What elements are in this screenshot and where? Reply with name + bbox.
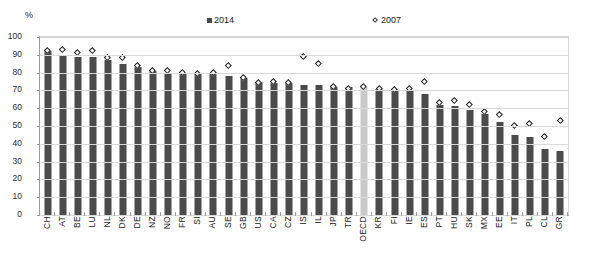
x-axis-tick-label: MX xyxy=(479,216,489,229)
x-axis-tick-label: CL xyxy=(539,216,549,227)
y-axis-tick-label: 90 xyxy=(0,49,22,59)
y-axis-tick-mark xyxy=(37,162,40,163)
gridline xyxy=(40,55,568,56)
gridline xyxy=(40,126,568,127)
gridline xyxy=(40,162,568,163)
bar-2014 xyxy=(331,87,338,215)
diamond-marker-2007 xyxy=(466,101,473,108)
y-axis-tick-mark xyxy=(37,179,40,180)
y-axis-tick-mark xyxy=(37,37,40,38)
x-axis-tick-mark xyxy=(145,212,146,216)
x-axis-tick-mark xyxy=(280,212,281,216)
bar-2014 xyxy=(104,60,111,215)
x-axis-tick-label: EE xyxy=(494,216,504,228)
bar-2014 xyxy=(255,82,262,216)
x-axis-tick-label: NO xyxy=(162,216,172,229)
bar-2014 xyxy=(89,57,96,215)
x-axis-tick-mark xyxy=(130,212,131,216)
gridline xyxy=(40,144,568,145)
x-axis-tick-mark xyxy=(99,212,100,216)
x-axis-tick-label: SK xyxy=(464,216,474,228)
bar-2014 xyxy=(527,137,534,215)
y-axis-tick-label: 70 xyxy=(0,84,22,94)
bar-2014 xyxy=(74,57,81,215)
y-axis-tick-mark xyxy=(37,197,40,198)
x-axis-tick-mark xyxy=(235,212,236,216)
x-axis-tick-mark xyxy=(522,212,523,216)
diamond-marker-2007 xyxy=(421,78,428,85)
x-axis-tick-label: NL xyxy=(102,216,112,227)
y-axis-tick-mark xyxy=(37,144,40,145)
x-axis-tick-mark xyxy=(492,212,493,216)
bar-2014 xyxy=(361,87,368,215)
diamond-marker-2007 xyxy=(59,46,66,53)
x-axis-tick-label: TR xyxy=(343,216,353,228)
x-axis-tick-mark xyxy=(250,212,251,216)
bar-2014 xyxy=(482,114,489,215)
y-axis-tick-label: 20 xyxy=(0,173,22,183)
bar-2014 xyxy=(346,87,353,215)
diamond-marker-2007 xyxy=(285,80,292,87)
diamond-marker-2007 xyxy=(331,83,338,90)
x-axis-tick-mark xyxy=(326,212,327,216)
diamond-marker-2007 xyxy=(135,62,142,69)
gridline xyxy=(40,197,568,198)
x-axis-tick-mark xyxy=(54,212,55,216)
gridline xyxy=(40,179,568,180)
bar-2014 xyxy=(436,105,443,215)
x-axis-tick-mark xyxy=(567,212,568,216)
x-axis-tick-label: OECD xyxy=(358,216,368,242)
x-axis-tick-mark xyxy=(190,212,191,216)
x-axis-tick-label: IT xyxy=(509,216,519,224)
y-axis-tick-label: 30 xyxy=(0,156,22,166)
y-axis-tick-mark xyxy=(37,90,40,91)
x-axis-tick-label: GB xyxy=(238,216,248,229)
diamond-marker-2007 xyxy=(451,98,458,105)
diamond-marker-2007 xyxy=(557,117,564,124)
y-axis-tick-mark xyxy=(37,108,40,109)
x-axis-tick-label: NZ xyxy=(147,216,157,228)
bar-2014 xyxy=(270,83,277,215)
x-axis-tick-mark xyxy=(69,212,70,216)
x-axis-tick-mark xyxy=(461,212,462,216)
bar-2014 xyxy=(497,122,504,215)
diamond-marker-2007 xyxy=(89,48,96,55)
x-axis-tick-mark xyxy=(220,212,221,216)
gridline xyxy=(40,90,568,91)
x-axis-tick-mark xyxy=(371,212,372,216)
x-axis-tick-label: AT xyxy=(57,216,67,227)
diamond-marker-2007 xyxy=(44,48,51,55)
x-axis-tick-label: CZ xyxy=(283,216,293,228)
y-axis-tick-label: 80 xyxy=(0,67,22,77)
gridline xyxy=(40,108,568,109)
diamond-marker-2007 xyxy=(316,60,323,67)
x-axis-tick-label: CA xyxy=(268,216,278,228)
y-axis-tick-mark xyxy=(37,55,40,56)
x-axis-tick-label: SE xyxy=(223,216,233,228)
x-axis-tick-label: AU xyxy=(207,216,217,228)
x-axis-tick-mark xyxy=(476,212,477,216)
x-axis-tick-mark xyxy=(386,212,387,216)
legend-item-2014: 2014 xyxy=(207,15,234,25)
x-axis-tick-mark xyxy=(401,212,402,216)
chart-legend: 2014 2007 xyxy=(0,14,589,30)
x-axis-tick-mark xyxy=(537,212,538,216)
x-axis-tick-mark xyxy=(205,212,206,216)
y-axis-tick-label: 0 xyxy=(0,209,22,219)
x-axis-tick-label: PT xyxy=(434,216,444,227)
bar-2014 xyxy=(44,51,51,215)
y-axis-tick-label: 40 xyxy=(0,138,22,148)
y-axis-tick-label: 50 xyxy=(0,120,22,130)
x-axis-tick-mark xyxy=(416,212,417,216)
legend-label-2014: 2014 xyxy=(214,15,234,25)
bar-2014 xyxy=(542,149,549,215)
x-axis-tick-label: GR xyxy=(554,216,564,229)
diamond-marker-2007 xyxy=(119,55,126,62)
x-axis-tick-label: DE xyxy=(132,216,142,228)
plot-area xyxy=(39,36,569,216)
legend-label-2007: 2007 xyxy=(381,15,401,25)
legend-item-2007: 2007 xyxy=(372,15,401,25)
y-axis-tick-label: 10 xyxy=(0,191,22,201)
x-axis-tick-mark xyxy=(356,212,357,216)
x-axis-tick-mark xyxy=(84,212,85,216)
